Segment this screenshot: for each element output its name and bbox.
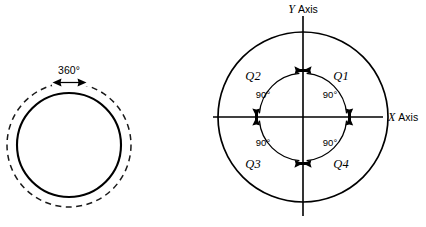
arrow-join-top [299,69,307,72]
arrow-join-bottom [299,162,307,165]
quadrant-label-q1: Q1 [333,69,348,83]
y-axis-symbol: Y [288,2,296,16]
quadrant-label-q4: Q4 [333,157,348,171]
x-axis-word: Axis [398,111,418,123]
q2-angle-label: 90° [256,89,271,100]
quadrant-label-q2: Q2 [245,69,260,83]
quadrant-diagram: 90° 90° 90° 90° Q1 Q2 Q3 Q4 XAxis YAxis [0,0,426,227]
figure-canvas: 360° 90° [0,0,426,227]
y-axis-word: Axis [298,3,318,15]
arrow-join-left [255,113,258,121]
arrow-join-right [348,113,351,121]
q4-angle-label: 90° [323,137,338,148]
y-axis-label: YAxis [288,2,318,16]
x-axis-label: XAxis [387,110,418,124]
q3-angle-label: 90° [256,137,271,148]
quadrant-label-q3: Q3 [245,157,260,171]
q1-angle-label: 90° [323,89,338,100]
x-axis-symbol: X [387,110,396,124]
